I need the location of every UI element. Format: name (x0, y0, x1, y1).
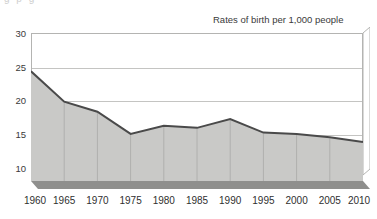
y-tick-label-10: 10 (15, 162, 26, 173)
x-tick-label-1995: 1995 (252, 195, 274, 206)
x-tick-label-1980: 1980 (153, 195, 175, 206)
x-tick-label-2010: 2010 (348, 195, 370, 206)
x-tick-label-2000: 2000 (285, 195, 307, 206)
y-tick-label-15: 15 (15, 128, 26, 139)
area-series-svg (31, 33, 363, 181)
y-axis: 3025201510 (0, 0, 30, 219)
x-tick-label-1990: 1990 (219, 195, 241, 206)
y-tick-label-20: 20 (15, 95, 26, 106)
x-tick-label-1965: 1965 (53, 195, 75, 206)
chart-3d-right-wall (363, 27, 370, 181)
x-tick-label-2005: 2005 (319, 195, 341, 206)
plot-area (31, 33, 363, 181)
chart-3d-base-slab (31, 181, 370, 190)
x-tick-label-1970: 1970 (86, 195, 108, 206)
x-tick-label-1960: 1960 (24, 195, 46, 206)
y-tick-label-30: 30 (15, 28, 26, 39)
y-tick-label-25: 25 (15, 61, 26, 72)
right-wall-face (363, 27, 370, 175)
x-tick-label-1985: 1985 (186, 195, 208, 206)
base-slab-face (31, 181, 370, 189)
chart-title: Rates of birth per 1,000 people (213, 14, 343, 25)
birth-rate-area-chart: g p g Rates of birth per 1,000 people 30… (0, 0, 377, 219)
x-axis: 1960196519701975198019851990199520002005… (0, 195, 377, 213)
x-tick-label-1975: 1975 (119, 195, 141, 206)
